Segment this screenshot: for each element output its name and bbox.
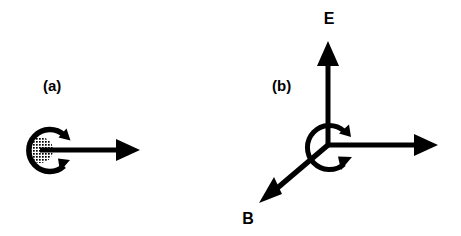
vector-diagram: (a) (b) E xyxy=(0,0,461,236)
figure-canvas: (a) (b) E xyxy=(0,0,461,236)
panel-b-label: (b) xyxy=(272,77,291,94)
vector-b-label: B xyxy=(242,210,254,227)
background xyxy=(0,0,461,236)
panel-a-label: (a) xyxy=(43,77,61,94)
vector-e-label: E xyxy=(324,10,335,27)
